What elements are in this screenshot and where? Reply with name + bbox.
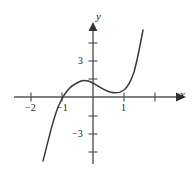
x-tick-label-minus-1: −1 <box>57 103 68 113</box>
cartesian-plot <box>0 0 194 176</box>
x-tick-label-minus-2: −2 <box>25 103 36 113</box>
x-axis-label: x <box>180 89 185 100</box>
x-tick-label-1: 1 <box>121 103 126 113</box>
y-tick-label-minus-3: −3 <box>72 129 83 139</box>
y-tick-label-3: 3 <box>78 56 83 66</box>
graph-figure: y x −2 −1 1 3 −3 <box>0 0 194 176</box>
y-axis-label: y <box>96 11 101 22</box>
y-axis-arrow-icon <box>89 22 98 31</box>
